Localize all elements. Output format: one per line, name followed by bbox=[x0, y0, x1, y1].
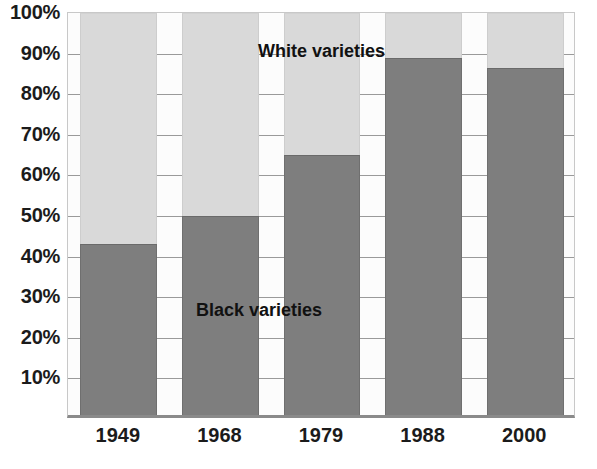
y-tick-label: 40% bbox=[21, 244, 60, 267]
annotation-white-varieties: White varieties bbox=[258, 41, 385, 62]
y-axis: 100%90%80%70%60%50%40%30%20%10% bbox=[0, 0, 63, 469]
bar-segment-white-varieties[interactable] bbox=[487, 13, 564, 68]
bar-column[interactable] bbox=[80, 13, 157, 415]
x-tick-label: 2000 bbox=[502, 424, 547, 447]
x-tick-label: 1988 bbox=[400, 424, 445, 447]
bar-segment-black-varieties[interactable] bbox=[385, 58, 462, 418]
bar-segment-black-varieties[interactable] bbox=[487, 68, 564, 418]
y-tick-label: 50% bbox=[21, 204, 60, 227]
y-tick-label: 10% bbox=[21, 366, 60, 389]
y-tick-label: 30% bbox=[21, 285, 60, 308]
y-tick-label: 90% bbox=[21, 41, 60, 64]
y-tick-label: 80% bbox=[21, 82, 60, 105]
y-tick-label: 20% bbox=[21, 325, 60, 348]
x-tick-label: 1979 bbox=[299, 424, 344, 447]
bars-layer bbox=[68, 13, 574, 415]
x-axis: 19491968197919882000 bbox=[67, 424, 575, 460]
bar-segment-white-varieties[interactable] bbox=[284, 13, 361, 155]
bar-segment-black-varieties[interactable] bbox=[80, 244, 157, 418]
x-tick-label: 1968 bbox=[197, 424, 242, 447]
x-tick-label: 1949 bbox=[96, 424, 141, 447]
plot-area: White varieties Black varieties bbox=[67, 12, 575, 418]
bar-segment-white-varieties[interactable] bbox=[80, 13, 157, 244]
y-tick-label: 100% bbox=[10, 1, 60, 24]
bar-segment-white-varieties[interactable] bbox=[385, 13, 462, 58]
annotation-black-varieties: Black varieties bbox=[196, 300, 322, 321]
bar-column[interactable] bbox=[385, 13, 462, 415]
bar-column[interactable] bbox=[487, 13, 564, 415]
stacked-bar-chart: 100%90%80%70%60%50%40%30%20%10% White va… bbox=[0, 0, 597, 469]
bar-segment-black-varieties[interactable] bbox=[284, 155, 361, 418]
bar-column[interactable] bbox=[284, 13, 361, 415]
y-tick-label: 60% bbox=[21, 163, 60, 186]
bar-column[interactable] bbox=[182, 13, 259, 415]
bar-segment-white-varieties[interactable] bbox=[182, 13, 259, 216]
y-tick-label: 70% bbox=[21, 122, 60, 145]
